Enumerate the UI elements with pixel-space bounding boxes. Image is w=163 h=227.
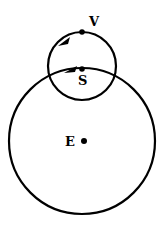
venus-point bbox=[79, 29, 85, 35]
venus-label: V bbox=[88, 14, 100, 29]
sun-point bbox=[79, 66, 85, 72]
sun-label: S bbox=[78, 73, 87, 88]
epicycle-circle bbox=[48, 32, 116, 100]
orbit-diagram: V S E bbox=[0, 0, 163, 227]
earth-point bbox=[81, 138, 87, 144]
earth-label: E bbox=[65, 134, 75, 149]
